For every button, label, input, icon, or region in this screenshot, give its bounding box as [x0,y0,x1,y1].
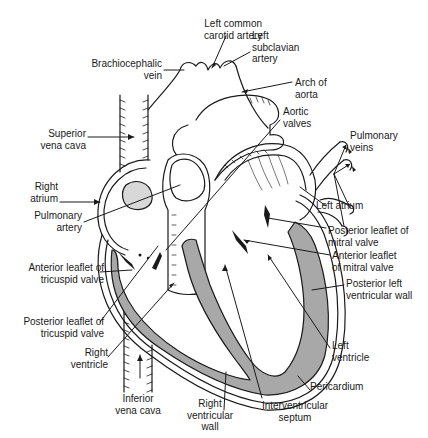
label-left-ventricle: Left ventricle [332,340,369,363]
label-right-ventricle: Right ventricle [60,347,108,370]
label-inferior-vena-cava: Inferior vena cava [106,393,170,416]
label-anterior-leaflet-mitral-valve: Anterior leaflet of mitral valve [332,250,396,273]
label-posterior-leaflet-tricuspid-valve: Posterior leaflet of tricuspid valve [4,316,104,339]
label-brachiocephalic-vein: Brachiocephalic vein [82,58,162,81]
label-anterior-leaflet-tricuspid-valve: Anterior leaflet of tricuspid valve [4,262,104,285]
label-posterior-left-ventricular-wall: Posterior left ventricular wall [346,278,412,301]
label-right-atrium: Right atrium [20,181,58,204]
label-interventricular-septum: Interventricular septum [250,400,340,423]
pulmonary-veins-shape [310,142,354,236]
label-superior-vena-cava: Superior vena cava [20,128,86,151]
label-posterior-leaflet-mitral-valve: Posterior leaflet of mitral valve [328,225,409,248]
label-aortic-valves: Aortic valves [283,106,311,129]
label-left-subclavian-artery: Left subclavian artery [252,30,299,65]
label-pulmonary-veins: Pulmonary veins [350,130,398,153]
label-right-ventricular-wall: Right ventricular wall [180,398,240,433]
label-left-atrium: Left atrium [316,200,363,212]
aorta-arch [196,95,284,180]
ventricular-muscle [111,222,328,395]
heart-diagram: Left common carotid artery Left subclavi… [0,0,428,438]
label-pulmonary-artery: Pulmonary artery [20,210,82,233]
label-pericardium: Pericardium [310,381,363,393]
label-arch-of-aorta: Arch of aorta [295,77,327,100]
